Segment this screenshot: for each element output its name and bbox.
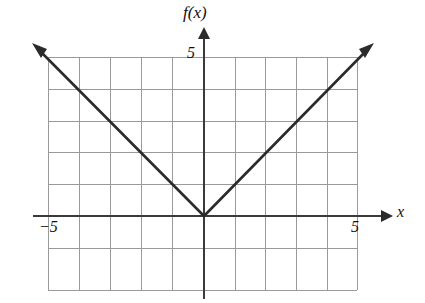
graph-figure: f(x) x 5 −5 5 — [0, 0, 425, 303]
grid-horizontal-lines — [48, 57, 357, 290]
x-axis-variable-label: x — [397, 204, 404, 220]
y-axis-tick-label-5: 5 — [187, 45, 195, 61]
y-axis-arrowhead-icon — [198, 27, 210, 39]
coordinate-plane-svg — [0, 0, 425, 303]
grid-vertical-lines — [48, 57, 357, 290]
y-axis-function-label: f(x) — [183, 4, 207, 21]
curve-left-branch — [38, 49, 204, 216]
grid-lines — [48, 57, 357, 290]
x-axis-tick-label-5: 5 — [351, 219, 359, 235]
x-axis-arrowhead-icon — [381, 210, 393, 222]
axes — [33, 27, 393, 299]
x-axis-tick-label-neg5: −5 — [39, 219, 58, 235]
curve-right-branch — [204, 50, 367, 216]
